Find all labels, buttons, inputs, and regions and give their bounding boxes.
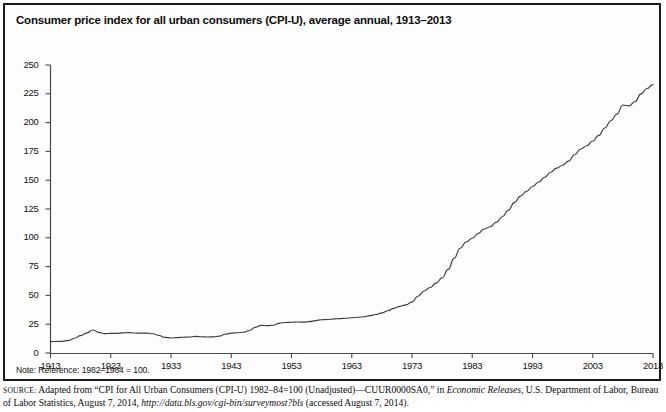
x-axis-tick-label: 2003 bbox=[573, 360, 613, 371]
chart-series-group bbox=[51, 85, 654, 342]
y-axis-tick-label: 175 bbox=[5, 145, 39, 156]
x-axis-tick-label: 1973 bbox=[392, 360, 432, 371]
x-axis-tick-label: 1953 bbox=[272, 360, 312, 371]
y-axis-tick-label: 50 bbox=[5, 289, 39, 300]
figure-container: Consumer price index for all urban consu… bbox=[3, 3, 661, 381]
x-axis-tick-label: 1993 bbox=[513, 360, 553, 371]
data-line-cpi-u bbox=[51, 85, 654, 342]
chart-note: Note: Reference: 1982–1984 = 100. bbox=[16, 365, 150, 375]
y-axis-tick-label: 250 bbox=[5, 59, 39, 70]
source-text-3: (accessed August 7, 2014). bbox=[303, 397, 409, 408]
y-axis-tick-label: 0 bbox=[5, 347, 39, 358]
y-axis-tick-label: 200 bbox=[5, 116, 39, 127]
x-axis-tick-label: 2013 bbox=[633, 360, 666, 371]
chart-plot-area: 0255075100125150175200225250 19131923193… bbox=[5, 5, 659, 379]
y-axis-tick-label: 25 bbox=[5, 318, 39, 329]
y-axis-tick-label: 225 bbox=[5, 87, 39, 98]
y-axis-tick-label: 100 bbox=[5, 231, 39, 242]
source-label: source: bbox=[3, 386, 36, 395]
source-citation: source: Adapted from “CPI for All Urban … bbox=[3, 384, 663, 410]
source-italic-url: http://data.bls.gov/cgi-bin/surveymost?b… bbox=[141, 397, 303, 408]
x-axis-tick-label: 1933 bbox=[151, 360, 191, 371]
x-axis-tick-label: 1983 bbox=[452, 360, 492, 371]
source-italic-publication: Economic Releases bbox=[447, 384, 521, 395]
chart-axes bbox=[51, 65, 654, 354]
x-axis-tick-label: 1963 bbox=[332, 360, 372, 371]
y-axis-ticks bbox=[46, 65, 51, 353]
x-axis-tick-label: 1943 bbox=[211, 360, 251, 371]
cpi-line-chart bbox=[5, 5, 659, 379]
y-axis-tick-label: 125 bbox=[5, 203, 39, 214]
y-axis-tick-label: 150 bbox=[5, 174, 39, 185]
source-text-1: Adapted from “CPI for All Urban Consumer… bbox=[36, 384, 446, 395]
y-axis-tick-label: 75 bbox=[5, 260, 39, 271]
